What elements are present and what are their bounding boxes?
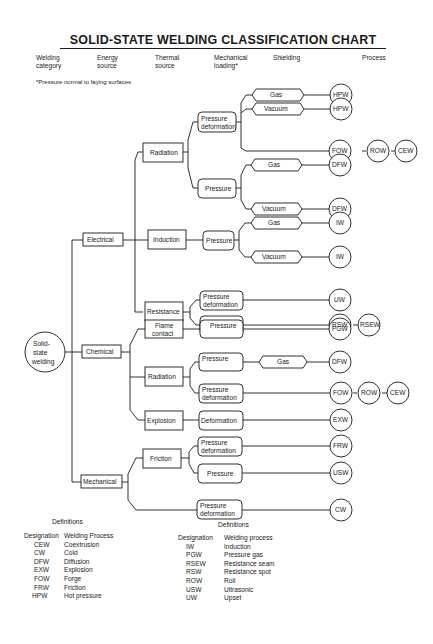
process-hpw: HPW [333,105,349,112]
svg-text:Pressure: Pressure [203,293,230,300]
svg-text:Vacuum: Vacuum [264,105,288,112]
svg-text:Pressure: Pressure [205,185,232,192]
svg-text:Solid-: Solid- [33,340,50,347]
svg-text:Gas: Gas [277,358,290,365]
svg-text:Pressure: Pressure [200,502,227,509]
svg-text:Vacuum: Vacuum [262,205,286,212]
process-exw: EXW [333,416,349,423]
process-cew: CEW [398,147,414,154]
process-usw: USW [333,469,349,476]
process-dfw: DFW [332,358,348,365]
svg-text:state: state [33,349,48,356]
source-explosion: Explosion [147,417,176,425]
svg-text:Pressure: Pressure [207,470,234,477]
svg-text:deformation: deformation [201,123,236,130]
category-electrical: Electrical [87,236,114,243]
svg-text:deformation: deformation [202,394,237,401]
source-induction: Induction [153,236,180,243]
process-hpw: HPW [333,91,349,98]
source-flame-contact-2: contact [152,330,173,337]
svg-text:Pressure: Pressure [206,237,233,244]
svg-text:deformation: deformation [201,447,236,454]
svg-text:Pressure: Pressure [201,439,228,446]
process-dfw: DFW [332,205,348,212]
process-cw: CW [335,506,347,513]
process-frw: FRW [333,442,349,449]
definitions-right: Definitions DesignationWelding process I… [178,524,275,603]
svg-text:Pressure: Pressure [201,115,228,122]
svg-text:Gas: Gas [270,91,283,98]
process-iw: IW [336,219,345,226]
svg-text:deformation: deformation [200,510,235,517]
category-mechanical: Mechanical [83,478,117,485]
process-row: ROW [361,389,378,396]
svg-text:welding: welding [31,358,55,366]
svg-text:Gas: Gas [268,161,281,168]
category-chemical: Chemical [86,348,114,355]
svg-text:Pressure: Pressure [210,322,237,329]
process-pgw: PGW [332,325,349,332]
process-fow: FOW [333,389,349,396]
svg-text:Deformation: Deformation [201,417,237,424]
svg-text:deformation: deformation [203,301,238,308]
definitions-left: Definitions DesignationWelding Process C… [24,524,113,601]
source-friction: Friction [150,455,172,462]
source-flame-contact-1: Flame [155,322,174,329]
process-dfw: DFW [332,161,348,168]
process-cew: CEW [390,389,406,396]
svg-text:Pressure: Pressure [202,386,229,393]
process-fow: FOW [332,147,348,154]
process-uw: UW [334,296,346,303]
process-rsew: RSEW [360,321,381,328]
process-row: ROW [370,147,387,154]
source-radiation: Radiation [150,149,178,156]
root-node: Solid- state welding [25,332,65,372]
svg-text:Gas: Gas [268,219,281,226]
svg-text:Vacuum: Vacuum [262,253,286,260]
source-radiation-chem: Radiation [148,373,176,380]
source-resistance: Resistance [147,308,180,315]
svg-text:Pressure: Pressure [202,355,229,362]
process-iw: IW [336,253,345,260]
